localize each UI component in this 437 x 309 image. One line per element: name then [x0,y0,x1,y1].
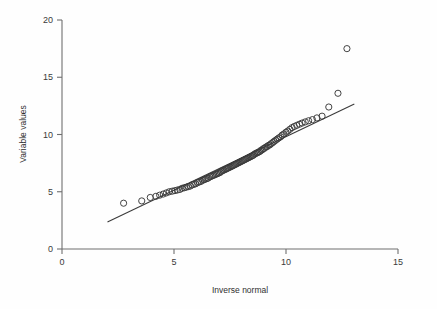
y-tick-label: 20 [43,15,53,25]
x-axis-label: Inverse normal [212,285,268,295]
x-tick-label: 0 [59,257,64,267]
y-tick-label: 10 [43,130,53,140]
x-tick-label: 5 [171,257,176,267]
plot-canvas: 05101520 051015 Variable values Inverse … [0,0,437,309]
x-tick-label: 15 [393,257,403,267]
y-tick-label: 0 [48,244,53,254]
y-axis-label: Variable values [18,105,28,163]
y-tick-label: 5 [48,187,53,197]
x-tick-label: 10 [281,257,291,267]
qq-plot-figure: 05101520 051015 Variable values Inverse … [0,0,437,309]
y-tick-label: 15 [43,72,53,82]
plot-background [0,0,437,309]
